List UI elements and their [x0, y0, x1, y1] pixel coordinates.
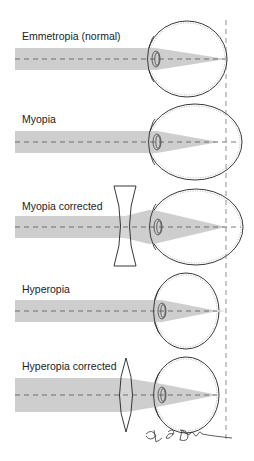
panel-label: Myopia [22, 113, 56, 125]
panel-label: Emmetropia (normal) [22, 30, 121, 42]
panel-label: Hyperopia [22, 283, 70, 295]
refraction-diagram: Emmetropia (normal)MyopiaMyopia correcte… [0, 0, 254, 461]
panel-label: Myopia corrected [22, 200, 103, 212]
panel-label: Hyperopia corrected [22, 360, 117, 372]
